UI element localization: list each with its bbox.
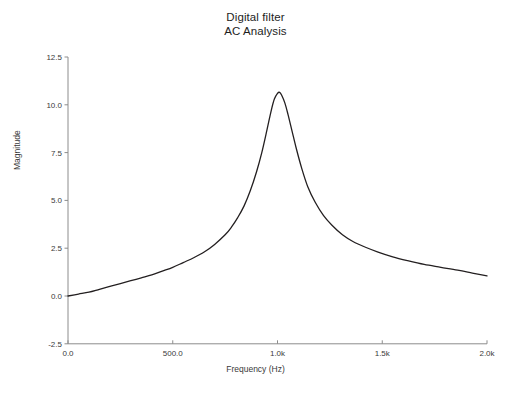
plot-area bbox=[0, 0, 511, 394]
chart-figure: Digital filter AC Analysis Magnitude Fre… bbox=[0, 0, 511, 394]
tick-marks bbox=[65, 57, 488, 344]
data-series-line bbox=[68, 92, 487, 296]
axis-lines bbox=[68, 57, 487, 344]
